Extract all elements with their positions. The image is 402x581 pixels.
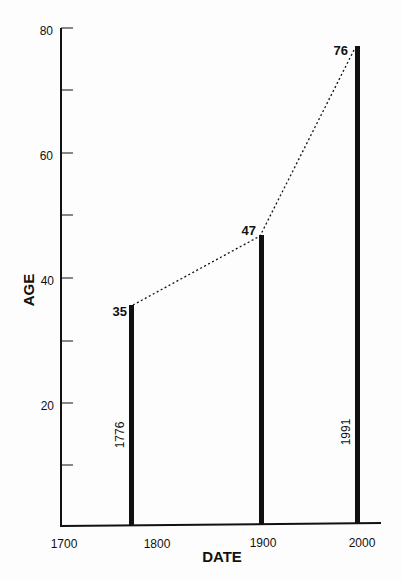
trend-dotted-line xyxy=(133,50,354,305)
x-tick-label-1700: 1700 xyxy=(51,537,78,551)
y-axis-title: AGE xyxy=(20,274,37,307)
x-tick-label-1800: 1800 xyxy=(144,537,171,551)
x-axis-title: DATE xyxy=(202,548,242,565)
bar-1900 xyxy=(259,235,264,525)
life-expectancy-chart: 80 60 40 20 1700 1800 1900 2000 DATE AGE… xyxy=(0,0,402,581)
value-label-76: 76 xyxy=(334,43,348,58)
y-tick-label-60: 60 xyxy=(40,149,54,163)
year-label-1991: 1991 xyxy=(339,418,353,445)
x-tick-label-2000: 2000 xyxy=(349,536,376,550)
y-tick-label-20: 20 xyxy=(41,399,55,413)
value-label-47: 47 xyxy=(242,223,256,238)
bar-1776 xyxy=(129,305,134,526)
x-axis xyxy=(61,523,381,526)
x-tick-label-1900: 1900 xyxy=(250,536,277,550)
y-tick-label-80: 80 xyxy=(40,24,54,38)
year-label-1776: 1776 xyxy=(113,421,127,448)
value-label-35: 35 xyxy=(113,304,127,319)
bar-1991 xyxy=(355,46,360,524)
y-ticks xyxy=(61,28,73,465)
y-tick-label-40: 40 xyxy=(41,274,55,288)
